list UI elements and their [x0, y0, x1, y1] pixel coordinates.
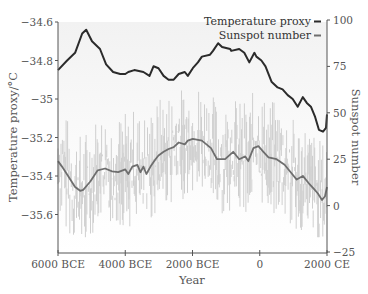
- x-tick-label: 6000 BCE: [31, 258, 85, 270]
- chart-container: −34.6−34.8−35−35.2−35.4−35.61007550250−2…: [0, 0, 368, 294]
- y-axis-right-title: Sunspot number: [349, 89, 363, 186]
- y-right-tick-label: 0: [333, 200, 340, 212]
- y-axis-left-title: Temperature proxy/°C: [6, 72, 20, 202]
- y-left-tick-label: −34.8: [21, 55, 53, 67]
- y-right-tick-label: 75: [333, 60, 346, 72]
- y-left-tick-label: −35: [31, 93, 53, 105]
- y-left-tick-label: −35.4: [21, 170, 53, 182]
- y-left-tick-label: −35.2: [21, 132, 53, 144]
- x-tick-label: 2000 CE: [304, 258, 350, 270]
- y-right-tick-label: 25: [333, 153, 346, 165]
- x-tick-label: 2000 BCE: [166, 258, 220, 270]
- y-left-tick-label: −35.6: [21, 209, 53, 221]
- x-axis-title: Year: [178, 273, 205, 287]
- y-left-tick-label: −34.6: [21, 16, 53, 28]
- x-tick-label: 0: [256, 258, 263, 270]
- x-tick-label: 4000 BCE: [98, 258, 152, 270]
- legend: Temperature proxy Sunspot number: [204, 15, 321, 42]
- y-right-tick-label: −25: [333, 246, 355, 258]
- legend-label-temperature: Temperature proxy: [204, 15, 312, 28]
- legend-label-sunspot: Sunspot number: [219, 29, 312, 42]
- y-right-tick-label: 50: [333, 107, 346, 119]
- y-right-tick-label: 100: [333, 14, 353, 26]
- line-chart: −34.6−34.8−35−35.2−35.4−35.61007550250−2…: [0, 0, 368, 294]
